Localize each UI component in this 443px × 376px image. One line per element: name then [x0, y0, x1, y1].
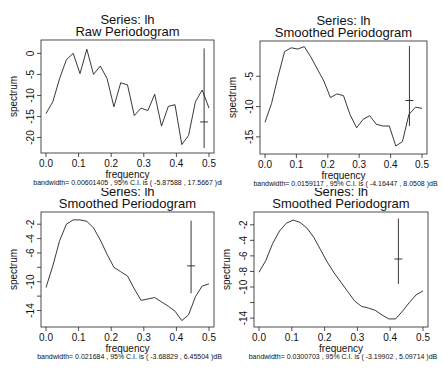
chart-smoothed-periodogram-3: Series: lhSmoothed Periodogram0.00.10.20… [222, 188, 443, 376]
chart-svg: Series: lhSmoothed Periodogram0.00.10.20… [222, 188, 443, 376]
x-tick-label: 0.4 [169, 158, 183, 169]
x-tick-label: 0.1 [72, 332, 86, 343]
spectrum-line [46, 220, 209, 321]
y-tick-label: 0 [25, 50, 36, 56]
y-tick-label: -15 [25, 109, 36, 124]
y-tick-label: -4 [238, 235, 249, 244]
x-tick-label: 0.0 [39, 158, 53, 169]
x-tick-label: 0.1 [289, 159, 303, 170]
bandwidth-caption: bandwidth= 0.021684 , 95% C.I. is ( -3.6… [37, 353, 222, 361]
chart-subtitle: Smoothed Periodogram [272, 196, 409, 211]
y-tick-label: -5 [244, 71, 255, 80]
x-tick-label: 0.3 [350, 332, 364, 343]
x-tick-label: 0.1 [72, 158, 86, 169]
y-axis-label: spectrum [222, 249, 232, 290]
y-tick-label: -2 [25, 219, 36, 228]
y-tick-label: -8 [238, 267, 249, 276]
y-tick-label: -14 [25, 303, 36, 318]
x-tick-label: 0.5 [415, 159, 429, 170]
y-axis-label: spectrum [8, 76, 19, 117]
x-tick-label: 0.2 [321, 159, 335, 170]
chart-smoothed-periodogram-2: Series: lhSmoothed Periodogram0.00.10.20… [0, 188, 222, 376]
y-tick-label: -20 [25, 130, 36, 145]
y-tick-label: -6 [238, 251, 249, 260]
bandwidth-caption: bandwidth= 0.0300703 , 95% C.I. is ( -3.… [249, 353, 438, 361]
y-tick-label: -10 [244, 99, 255, 114]
chart-smoothed-periodogram-1: Series: lhSmoothed Periodogram0.00.10.20… [222, 0, 443, 188]
x-tick-label: 0.0 [252, 332, 266, 343]
x-tick-label: 0.3 [137, 158, 151, 169]
y-axis-label: spectrum [8, 249, 19, 290]
x-tick-label: 0.2 [104, 158, 118, 169]
x-tick-label: 0.2 [104, 332, 118, 343]
y-axis-label: spectrum [227, 77, 238, 118]
y-tick-label: -10 [25, 274, 36, 289]
chart-subtitle: Smoothed Periodogram [59, 196, 196, 211]
chart-svg: Series: lhSmoothed Periodogram0.00.10.20… [0, 188, 222, 376]
plot-frame [260, 41, 427, 154]
chart-svg: Series: lhSmoothed Periodogram0.00.10.20… [222, 0, 443, 188]
y-tick-label: -10 [25, 88, 36, 103]
chart-subtitle: Smoothed Periodogram [275, 25, 412, 40]
x-tick-label: 0.3 [137, 332, 151, 343]
chart-subtitle: Raw Periodogram [75, 24, 179, 39]
x-tick-label: 0.0 [258, 159, 272, 170]
bandwidth-caption: bandwidth= 0.00601405 , 95% C.I. is ( -5… [33, 179, 222, 187]
y-tick-label: -14 [238, 310, 249, 325]
chart-svg: Series: lhRaw Periodogram0.00.10.20.30.4… [0, 0, 222, 188]
x-tick-label: 0.0 [39, 332, 53, 343]
y-tick-label: -5 [25, 70, 36, 79]
plot-frame [254, 212, 428, 327]
x-tick-label: 0.2 [318, 332, 332, 343]
y-tick-label: -15 [244, 129, 255, 144]
y-tick-label: -4 [25, 234, 36, 243]
x-tick-label: 0.4 [169, 332, 183, 343]
plot-frame [41, 212, 214, 327]
spectrum-line [265, 47, 422, 146]
y-tick-label: -10 [238, 279, 249, 294]
y-tick-label: -2 [238, 220, 249, 229]
y-tick-label: -6 [25, 248, 36, 257]
bandwidth-caption: bandwidth= 0.0159117 , 95% C.I. is ( -4.… [253, 180, 437, 188]
x-tick-label: 0.5 [202, 158, 216, 169]
spectrum-line [46, 49, 209, 144]
chart-raw-periodogram: Series: lhRaw Periodogram0.00.10.20.30.4… [0, 0, 222, 188]
x-tick-label: 0.4 [383, 332, 397, 343]
x-tick-label: 0.5 [202, 332, 216, 343]
x-tick-label: 0.5 [416, 332, 430, 343]
x-tick-label: 0.4 [384, 159, 398, 170]
x-tick-label: 0.3 [352, 159, 366, 170]
x-tick-label: 0.1 [285, 332, 299, 343]
